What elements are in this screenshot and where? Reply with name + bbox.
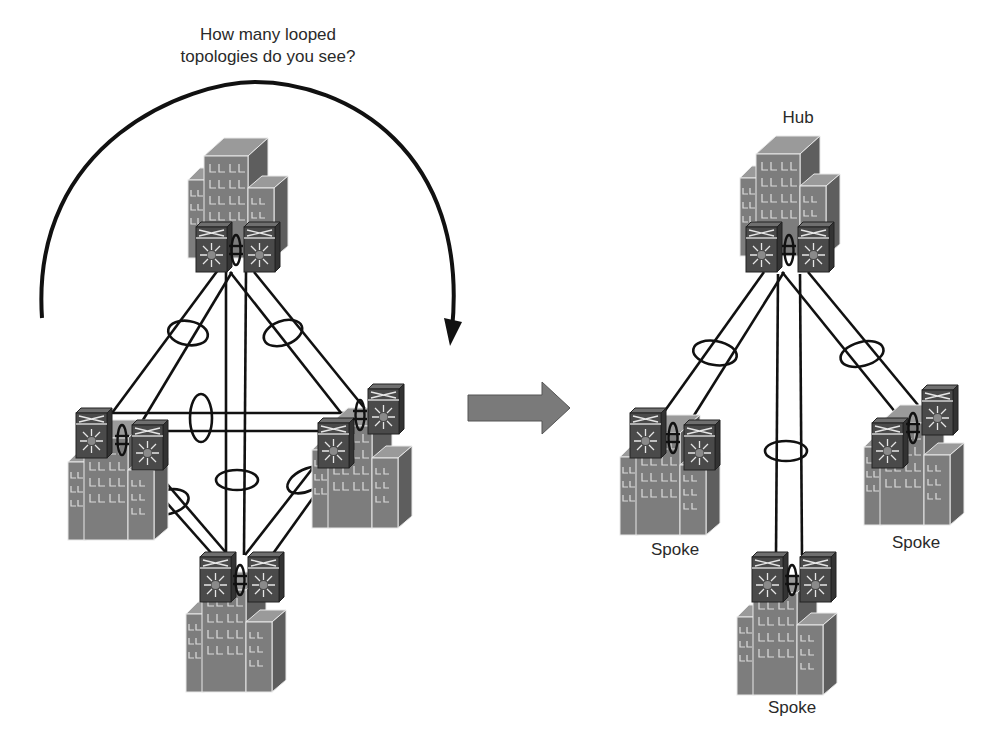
topology-diagram: How many looped topologies do you see? [0,0,1003,747]
switch-icon [684,420,720,470]
switch-icon [318,418,354,468]
left-site-top [188,138,288,272]
question-line-1: How many looped [200,25,336,44]
switch-icon [196,222,232,272]
switch-icon [872,418,908,468]
switch-icon [630,408,666,458]
hub-label: Hub [782,108,813,127]
switch-icon [922,385,958,435]
switch-icon [798,222,834,272]
left-site-left [68,408,168,540]
spoke-right-label: Spoke [892,533,940,552]
switch-icon [800,552,836,602]
spoke-site-left [620,408,720,535]
right-arrow-icon [468,382,570,434]
spoke-bottom-label: Spoke [768,698,816,717]
switch-icon [368,384,404,434]
spoke-site-bottom [737,552,837,695]
left-site-bottom [186,552,286,692]
switch-icon [752,552,788,602]
left-bundles [145,315,331,519]
question-line-2: topologies do you see? [181,47,356,66]
switch-icon [200,552,236,602]
switch-icon [746,222,782,272]
hub-site [740,136,840,272]
switch-icon [76,408,112,458]
right-bundles [691,337,886,461]
spoke-site-right [864,385,964,525]
switch-icon [132,420,168,470]
switch-icon [244,222,280,272]
switch-icon [248,552,284,602]
spoke-left-label: Spoke [651,540,699,559]
